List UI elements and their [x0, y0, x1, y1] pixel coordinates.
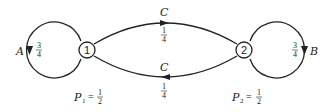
- self-loop-a: A 3 4: [15, 22, 81, 78]
- edge-1-to-2: C 1 4: [94, 6, 237, 44]
- edge-prob-num-b: 3: [293, 41, 297, 50]
- edge-prob-den-c-top: 4: [162, 35, 166, 44]
- stationary-prob-2: P 2 = 1 2: [231, 88, 262, 106]
- edge-prob-num-c-top: 1: [162, 26, 166, 35]
- prob-num-1: 1: [98, 88, 102, 97]
- arrow-down-icon: [301, 46, 308, 55]
- edge-prob-num-a: 3: [37, 41, 41, 50]
- edge-prob-den-a: 4: [37, 50, 41, 59]
- edge-label-b: B: [309, 45, 318, 58]
- prob-sub-2: 2: [240, 97, 244, 105]
- node-label-1: 1: [84, 44, 90, 56]
- state-node-1: 1: [79, 42, 95, 58]
- state-node-2: 2: [236, 42, 252, 58]
- node-label-2: 2: [241, 44, 247, 56]
- prob-sub-1: 1: [82, 97, 86, 105]
- prob-eq-2: =: [246, 91, 252, 102]
- edge-prob-num-c-bottom: 1: [162, 82, 166, 91]
- edge-label-c-bottom: C: [160, 61, 169, 74]
- edge-label-c-top: C: [160, 6, 169, 19]
- prob-symbol-2: P: [231, 91, 240, 104]
- edge-2-to-1: C 1 4: [94, 56, 237, 100]
- markov-chain-diagram: A 3 4 3 4 B C 1 4 C 1 4 1 2: [0, 0, 331, 112]
- prob-den-2: 2: [257, 97, 261, 106]
- stationary-prob-1: P 1 = 1 2: [73, 88, 103, 106]
- arrow-left-icon: [161, 74, 170, 80]
- prob-symbol-1: P: [73, 91, 82, 104]
- edge-prob-den-b: 4: [293, 50, 297, 59]
- prob-num-2: 1: [257, 88, 261, 97]
- prob-den-1: 2: [98, 97, 102, 106]
- prob-eq-1: =: [88, 91, 94, 102]
- edge-label-a: A: [15, 45, 24, 58]
- self-loop-b: 3 4 B: [250, 22, 318, 78]
- edge-prob-den-c-bottom: 4: [162, 91, 166, 100]
